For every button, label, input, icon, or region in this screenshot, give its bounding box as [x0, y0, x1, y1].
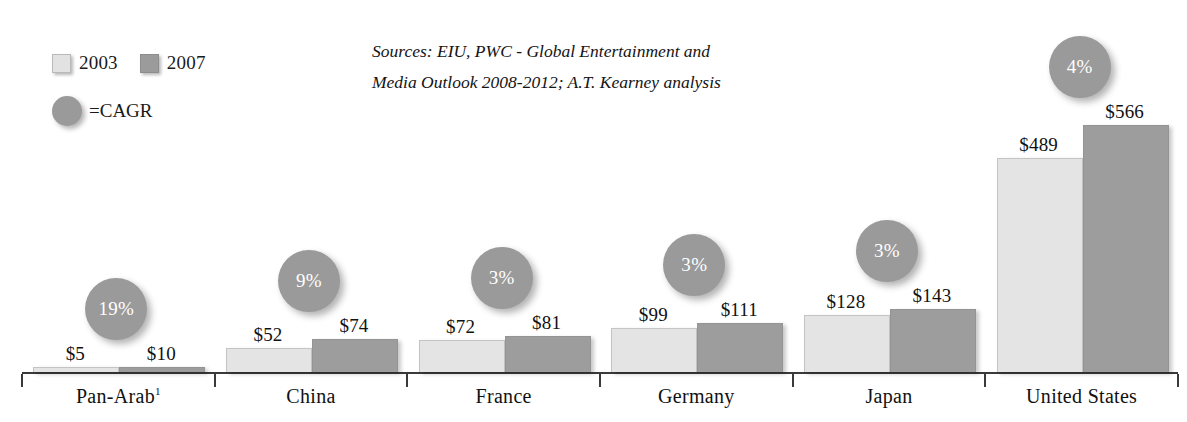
- bar-pan-arab-2007: [119, 367, 205, 372]
- category-label-united-states: United States: [985, 385, 1178, 408]
- bar-value-label-pan-arab-2003: $5: [33, 343, 117, 365]
- bar-china-2007: [312, 339, 398, 372]
- cagr-bubble-pan-arab: 19%: [85, 278, 147, 340]
- chart-container: 2003 2007 =CAGR Sources: EIU, PWC - Glob…: [0, 0, 1187, 422]
- category-label-germany: Germany: [600, 385, 793, 408]
- bar-value-label-united-states-2007: $566: [1083, 101, 1167, 123]
- bar-united-states-2007: [1083, 125, 1169, 372]
- bar-china-2003: [226, 348, 312, 372]
- cagr-bubble-china: 9%: [278, 250, 340, 312]
- cagr-bubble-france: 3%: [471, 247, 533, 309]
- bar-value-label-china-2003: $52: [226, 324, 310, 346]
- bar-japan-2007: [890, 309, 976, 372]
- footnote-marker: 1: [155, 385, 161, 397]
- bar-pan-arab-2003: [33, 367, 119, 372]
- bar-value-label-germany-2007: $111: [697, 299, 781, 321]
- category-label-japan: Japan: [793, 385, 986, 408]
- cagr-bubble-united-states: 4%: [1049, 36, 1111, 98]
- bar-japan-2003: [804, 315, 890, 372]
- bar-value-label-germany-2003: $99: [611, 304, 695, 326]
- bar-france-2003: [419, 340, 505, 372]
- cagr-bubble-germany: 3%: [663, 234, 725, 296]
- bar-value-label-france-2007: $81: [505, 312, 589, 334]
- category-label-pan-arab: Pan-Arab1: [22, 385, 215, 408]
- bar-germany-2003: [611, 328, 697, 372]
- bar-value-label-pan-arab-2007: $10: [119, 343, 203, 365]
- bar-germany-2007: [697, 323, 783, 372]
- bar-value-label-china-2007: $74: [312, 315, 396, 337]
- bar-value-label-france-2003: $72: [419, 316, 503, 338]
- category-label-france: France: [407, 385, 600, 408]
- bar-united-states-2003: [997, 158, 1083, 372]
- bar-value-label-japan-2003: $128: [804, 291, 888, 313]
- cagr-bubble-japan: 3%: [856, 220, 918, 282]
- category-label-china: China: [215, 385, 408, 408]
- bar-value-label-japan-2007: $143: [890, 285, 974, 307]
- bar-value-label-united-states-2003: $489: [997, 134, 1081, 156]
- bar-france-2007: [505, 336, 591, 372]
- plot-area: $5$10$52$74$72$81$99$111$128$143$489$566…: [0, 0, 1187, 422]
